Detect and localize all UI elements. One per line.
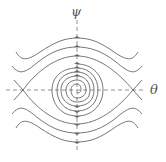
psi-axis-label: ψ: [71, 4, 82, 19]
axes: [6, 20, 146, 152]
arrow-icon: [74, 142, 80, 144]
arrow-icon: [74, 45, 80, 47]
arrow-icon: [74, 36, 80, 38]
arrow-icon: [74, 106, 80, 108]
theta-axis-label: θ: [150, 82, 158, 97]
arrow-icon: [74, 62, 80, 64]
arrow-icon: [74, 133, 80, 135]
arrow-icon: [74, 124, 80, 126]
arrow-icon: [74, 70, 80, 72]
arrow-icon: [74, 74, 80, 76]
arrow-icon: [74, 54, 80, 56]
arrow-icon: [74, 66, 80, 68]
arrow-icon: [74, 111, 80, 113]
phase-portrait: ψ θ: [0, 0, 166, 162]
arrow-icon: [74, 116, 80, 118]
separatrix-upper: [14, 56, 142, 90]
